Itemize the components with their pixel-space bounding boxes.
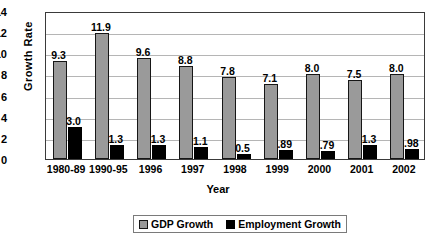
bar-value-label: 9.3 <box>51 49 66 61</box>
chart-legend: GDP GrowthEmployment Growth <box>133 215 347 233</box>
y-axis-tick: 10 <box>0 48 7 60</box>
x-axis-tick: 1980-89 <box>47 163 86 175</box>
y-axis-tick: 8 <box>0 69 7 81</box>
employment-bar <box>194 147 208 159</box>
y-axis-tick: 14 <box>0 6 7 18</box>
bar-value-label: 11.9 <box>91 21 111 33</box>
bar-value-label: 8.0 <box>305 62 320 74</box>
y-axis-tick: 4 <box>0 112 7 124</box>
employment-bar <box>363 145 377 159</box>
y-axis-tick: 0 <box>0 154 7 166</box>
bar-chart: Growth Rate 02468101214 1980-891990-9519… <box>0 0 436 241</box>
x-axis-tick: 2002 <box>392 163 415 175</box>
x-axis-tick: 1990-95 <box>89 163 128 175</box>
bar-value-label: 9.6 <box>136 46 151 58</box>
y-axis-title: Growth Rate <box>22 0 34 126</box>
legend-item: Employment Growth <box>226 218 341 230</box>
employment-bar <box>237 154 251 159</box>
y-axis-tick: 12 <box>0 27 7 39</box>
employment-bar <box>279 150 293 159</box>
bar-value-label: 1.3 <box>109 133 124 145</box>
bar-value-label: 7.1 <box>262 72 277 84</box>
bar-value-label: 7.5 <box>347 68 362 80</box>
bar-value-label: 7.8 <box>220 65 235 77</box>
employment-bar <box>152 145 166 159</box>
gdp-bar <box>264 84 278 159</box>
bar-value-label: 3.0 <box>66 115 81 127</box>
gdp-bar <box>306 74 320 159</box>
x-axis-tick: 1999 <box>266 163 289 175</box>
employment-bar <box>68 127 82 159</box>
gdp-bar <box>137 58 151 159</box>
x-axis-tick: 2001 <box>350 163 373 175</box>
x-axis-tick: 1997 <box>181 163 204 175</box>
bar-value-label: .89 <box>277 138 292 150</box>
gdp-bar <box>95 33 109 159</box>
y-axis-tick: 2 <box>0 133 7 145</box>
bar-value-label: .79 <box>320 139 335 151</box>
legend-item: GDP Growth <box>139 218 213 230</box>
x-axis-tick: 2000 <box>308 163 331 175</box>
gdp-bar <box>348 80 362 159</box>
gdp-bar <box>179 66 193 159</box>
y-axis-tick: 6 <box>0 91 7 103</box>
employment-bar <box>110 145 124 159</box>
employment-bar <box>405 149 419 159</box>
bar-value-label: 1.1 <box>193 135 208 147</box>
gdp-bar <box>53 61 67 159</box>
legend-swatch-gdp <box>139 220 148 229</box>
x-axis-tick: 1996 <box>139 163 162 175</box>
x-axis-title: Year <box>0 183 436 195</box>
bar-value-label: 1.3 <box>151 133 166 145</box>
bar-value-label: .98 <box>404 137 419 149</box>
legend-label: Employment Growth <box>238 218 341 230</box>
bar-value-label: 8.0 <box>389 62 404 74</box>
legend-label: GDP Growth <box>151 218 213 230</box>
legend-swatch-emp <box>226 220 235 229</box>
gdp-bar <box>222 77 236 159</box>
x-axis-tick: 1998 <box>223 163 246 175</box>
bar-value-label: 1.3 <box>362 133 377 145</box>
employment-bar <box>321 151 335 159</box>
gdp-bar <box>390 74 404 159</box>
bar-value-label: 0.5 <box>235 142 250 154</box>
bar-value-label: 8.8 <box>178 54 193 66</box>
